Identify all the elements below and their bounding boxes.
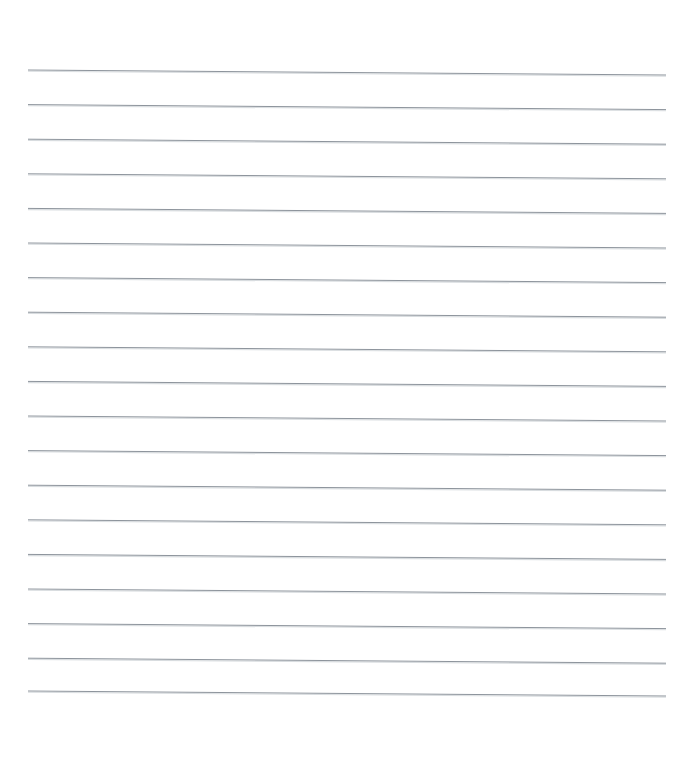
rule-line-shadow — [28, 348, 666, 353]
rule-line-shadow — [28, 279, 666, 284]
rule-line-shadow — [28, 452, 666, 457]
rule-line-shadow — [28, 417, 666, 422]
ruled-lines-layer — [0, 0, 685, 761]
rule-line-shadow — [28, 556, 666, 561]
rule-line-shadow — [28, 590, 666, 595]
rule-line-shadow — [28, 244, 666, 249]
scanned-page: Blank Ruled Notebook Page A scanned blan… — [0, 0, 685, 761]
rule-line-shadow — [28, 521, 666, 526]
rule-line — [28, 554, 666, 559]
rule-line-shadow — [28, 486, 666, 491]
rule-line-shadow — [28, 692, 666, 697]
rule-line-shadow — [28, 106, 666, 111]
rule-line-shadow — [28, 659, 666, 664]
rule-line-shadow — [28, 71, 666, 76]
rule-line-shadow — [28, 140, 666, 145]
rule-line-shadow — [28, 383, 666, 388]
rule-line-shadow — [28, 210, 666, 215]
rule-line-shadow — [28, 175, 666, 180]
rule-line-shadow — [28, 625, 666, 630]
rule-line-shadow — [28, 313, 666, 318]
